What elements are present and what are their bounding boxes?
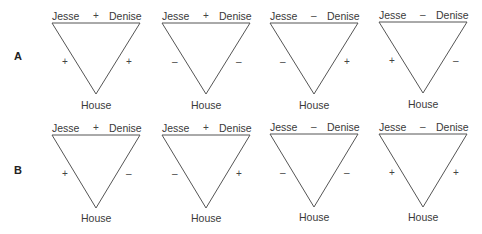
sign-jesse-denise: + [93,11,99,21]
node-jesse: Jesse [379,9,406,21]
node-jesse: Jesse [52,122,79,134]
triangle-a2: Jesse + Denise – – House [152,7,262,119]
triangle-a1: Jesse + Denise + + House [42,7,152,119]
node-house: House [81,212,111,224]
triangle-a4: Jesse – Denise + – House [369,6,479,118]
node-denise: Denise [219,10,252,22]
sign-jesse-house: + [62,169,68,179]
node-house: House [408,98,438,110]
sign-jesse-house: – [172,169,178,179]
node-denise: Denise [327,121,360,133]
node-denise: Denise [436,9,469,21]
sign-jesse-house: – [280,168,286,178]
node-jesse: Jesse [162,10,189,22]
node-house: House [191,99,221,111]
node-house: House [408,211,438,223]
row-label-b: B [14,164,22,176]
sign-jesse-house: + [62,57,68,67]
sign-denise-house: – [126,169,132,179]
node-denise: Denise [109,122,142,134]
sign-jesse-denise: + [203,11,209,21]
sign-denise-house: + [126,57,132,67]
triangle-a3: Jesse – Denise – + House [260,7,370,119]
sign-jesse-denise: – [311,122,317,132]
node-house: House [191,212,221,224]
sign-denise-house: + [236,169,242,179]
sign-jesse-denise: – [420,122,426,132]
triangle-b2: Jesse + Denise – + House [152,119,262,231]
node-jesse: Jesse [379,121,406,133]
sign-denise-house: – [344,168,350,178]
triangle-b3: Jesse – Denise – – House [260,118,370,230]
node-jesse: Jesse [270,121,297,133]
sign-denise-house: + [344,57,350,67]
node-jesse: Jesse [162,122,189,134]
sign-denise-house: – [453,56,459,66]
node-denise: Denise [327,10,360,22]
sign-jesse-house: + [389,168,395,178]
sign-jesse-house: – [172,57,178,67]
sign-jesse-denise: – [311,11,317,21]
node-jesse: Jesse [270,10,297,22]
node-denise: Denise [219,122,252,134]
sign-jesse-denise: + [93,123,99,133]
node-denise: Denise [436,121,469,133]
sign-denise-house: – [236,57,242,67]
row-label-a: A [14,50,22,62]
node-house: House [299,211,329,223]
node-denise: Denise [109,10,142,22]
triangle-b4: Jesse – Denise + + House [369,118,479,230]
sign-jesse-house: – [280,57,286,67]
node-house: House [299,99,329,111]
sign-jesse-house: + [389,56,395,66]
triangle-b1: Jesse + Denise + – House [42,119,152,231]
sign-jesse-denise: + [203,123,209,133]
node-jesse: Jesse [52,10,79,22]
sign-denise-house: + [453,168,459,178]
node-house: House [81,99,111,111]
sign-jesse-denise: – [420,10,426,20]
